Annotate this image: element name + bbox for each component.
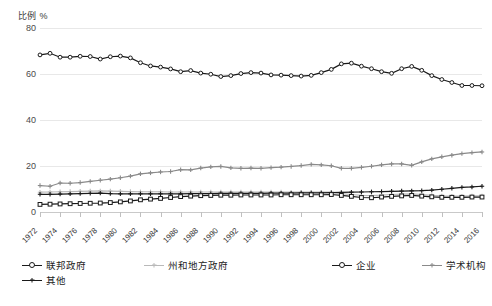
data-point bbox=[239, 72, 243, 76]
data-point bbox=[450, 153, 454, 157]
plot-area bbox=[40, 28, 482, 212]
series-layer bbox=[40, 28, 482, 212]
data-point bbox=[129, 199, 133, 203]
chart-legend: 联邦政府州和地方政府企业学术机构其他 bbox=[22, 258, 482, 298]
data-point bbox=[78, 180, 82, 184]
data-point bbox=[309, 73, 313, 77]
data-point bbox=[249, 71, 253, 75]
data-point bbox=[409, 189, 413, 193]
legend-label: 其他 bbox=[46, 273, 66, 287]
data-point bbox=[229, 193, 233, 197]
legend-marker-icon bbox=[422, 261, 442, 270]
data-point bbox=[88, 55, 92, 59]
data-point bbox=[199, 194, 203, 198]
x-tick-1982: 1982 bbox=[121, 226, 140, 245]
data-point bbox=[259, 71, 263, 75]
data-point bbox=[470, 84, 474, 88]
data-point bbox=[98, 191, 102, 195]
data-point bbox=[259, 166, 263, 170]
rd-funding-share-chart: 比例 % 020406080 1972197419761978198019821… bbox=[0, 0, 492, 306]
data-point bbox=[289, 74, 293, 78]
data-point bbox=[169, 196, 173, 200]
data-point bbox=[470, 185, 474, 189]
x-tick-2004: 2004 bbox=[342, 226, 361, 245]
data-point bbox=[470, 150, 474, 154]
legend-item-other[interactable]: 其他 bbox=[22, 273, 66, 287]
data-point bbox=[319, 163, 323, 167]
legend-item-state-local[interactable]: 州和地方政府 bbox=[144, 258, 228, 272]
data-point bbox=[430, 74, 434, 78]
data-point bbox=[440, 195, 444, 199]
data-point bbox=[98, 178, 102, 182]
data-point bbox=[38, 203, 42, 207]
data-point bbox=[88, 191, 92, 195]
data-point bbox=[118, 176, 122, 180]
x-tick-1996: 1996 bbox=[261, 226, 280, 245]
data-point bbox=[370, 67, 374, 71]
data-point bbox=[400, 67, 404, 71]
data-point bbox=[219, 164, 223, 168]
data-point bbox=[128, 174, 132, 178]
data-point bbox=[139, 61, 143, 65]
data-point bbox=[229, 166, 233, 170]
data-point bbox=[339, 62, 343, 66]
data-point bbox=[309, 193, 313, 197]
data-point bbox=[269, 165, 273, 169]
data-point bbox=[239, 193, 243, 197]
x-tick-1974: 1974 bbox=[40, 226, 59, 245]
data-point bbox=[430, 188, 434, 192]
legend-item-academic[interactable]: 学术机构 bbox=[422, 258, 486, 272]
data-point bbox=[219, 193, 223, 197]
data-point bbox=[470, 195, 474, 199]
y-tick-0: 0 bbox=[31, 207, 36, 217]
y-axis-tick-labels: 020406080 bbox=[0, 28, 40, 212]
data-point bbox=[369, 190, 373, 194]
legend-item-business[interactable]: 企业 bbox=[332, 258, 376, 272]
x-tick-2000: 2000 bbox=[301, 226, 320, 245]
x-tick-mark-2016 bbox=[482, 212, 483, 217]
data-point bbox=[360, 64, 364, 68]
data-point bbox=[450, 81, 454, 85]
data-point bbox=[78, 202, 82, 206]
data-point bbox=[399, 189, 403, 193]
data-point bbox=[319, 193, 323, 197]
data-point bbox=[48, 202, 52, 206]
x-tick-1994: 1994 bbox=[241, 226, 260, 245]
data-point bbox=[128, 192, 132, 196]
data-point bbox=[269, 73, 273, 77]
y-tick-80: 80 bbox=[26, 23, 36, 33]
x-tick-2002: 2002 bbox=[322, 226, 341, 245]
data-point bbox=[48, 192, 52, 196]
data-point bbox=[68, 192, 72, 196]
y-tick-40: 40 bbox=[26, 115, 36, 125]
data-point bbox=[420, 194, 424, 198]
data-point bbox=[309, 162, 313, 166]
data-point bbox=[299, 193, 303, 197]
data-point bbox=[430, 157, 434, 161]
data-point bbox=[339, 166, 343, 170]
data-point bbox=[139, 198, 143, 202]
data-point bbox=[279, 73, 283, 77]
data-point bbox=[88, 179, 92, 183]
x-tick-2006: 2006 bbox=[362, 226, 381, 245]
data-point bbox=[239, 166, 243, 170]
legend-marker-icon bbox=[144, 261, 164, 270]
legend-label: 企业 bbox=[356, 258, 376, 272]
x-tick-1984: 1984 bbox=[141, 226, 160, 245]
data-point bbox=[420, 188, 424, 192]
data-point bbox=[58, 181, 62, 185]
legend-label: 联邦政府 bbox=[46, 258, 86, 272]
data-point bbox=[329, 193, 333, 197]
x-tick-1980: 1980 bbox=[101, 226, 120, 245]
data-point bbox=[359, 190, 363, 194]
data-point bbox=[440, 155, 444, 159]
data-point bbox=[380, 70, 384, 74]
legend-marker-icon bbox=[332, 261, 352, 270]
data-point bbox=[379, 189, 383, 193]
x-tick-2012: 2012 bbox=[422, 226, 441, 245]
data-point bbox=[460, 151, 464, 155]
y-tick-60: 60 bbox=[26, 69, 36, 79]
legend-item-federal[interactable]: 联邦政府 bbox=[22, 258, 86, 272]
data-point bbox=[149, 197, 153, 201]
data-point bbox=[279, 193, 283, 197]
